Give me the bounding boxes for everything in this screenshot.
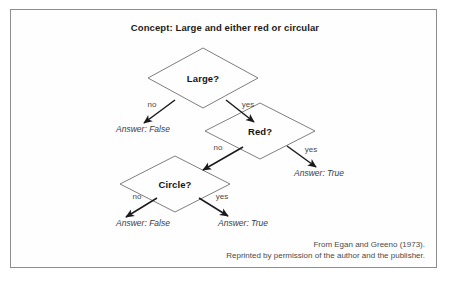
leaf-circle-no-answer: Answer: False — [116, 218, 170, 228]
caption-source: From Egan and Greeno (1973). — [313, 240, 425, 249]
leaf-large-no-answer: Answer: False — [116, 124, 170, 134]
edge-label-red-yes: yes — [305, 145, 317, 154]
edge-label-red-no: no — [214, 143, 223, 152]
node-label-red: Red? — [248, 126, 272, 137]
edge-label-circle-yes: yes — [216, 192, 228, 201]
edge-label-large-yes: yes — [242, 100, 254, 109]
edge-red-no — [203, 147, 243, 170]
leaf-circle-yes-answer: Answer: True — [218, 218, 268, 228]
node-label-large: Large? — [187, 73, 219, 84]
leaf-red-yes-answer: Answer: True — [294, 168, 344, 178]
edge-circle-no — [126, 198, 157, 217]
edge-label-large-no: no — [148, 100, 157, 109]
edge-label-circle-no: no — [133, 192, 142, 201]
edge-circle-yes — [199, 198, 228, 216]
caption-permission: Reprinted by permission of the author an… — [226, 251, 425, 260]
node-label-circle: Circle? — [159, 179, 192, 190]
